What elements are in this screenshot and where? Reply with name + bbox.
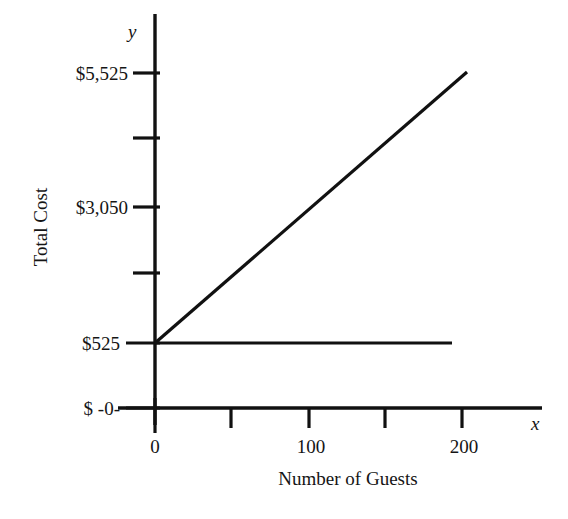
x-axis-title: Number of Guests	[278, 469, 417, 488]
x-tick-label-0: 0	[150, 437, 160, 456]
x-axis-letter: x	[531, 414, 539, 433]
y-axis-title: Total Cost	[31, 188, 50, 266]
y-tick-label-5525: $5,525	[58, 64, 128, 83]
y-tick-label-0: $ -0-	[58, 399, 120, 418]
series-line-variable-cost	[155, 72, 467, 343]
x-tick-label-100: 100	[297, 437, 326, 456]
chart-canvas: $5,525 $3,050 $525 $ -0- 0 100 200 y x N…	[0, 0, 568, 519]
x-tick-label-200: 200	[450, 437, 479, 456]
y-axis-letter: y	[128, 22, 136, 41]
y-tick-label-3050: $3,050	[58, 198, 128, 217]
y-tick-label-525: $525	[58, 334, 120, 353]
